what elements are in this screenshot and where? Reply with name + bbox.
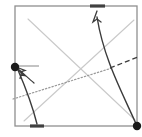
- diagram-svg: [0, 0, 142, 137]
- node-left: [11, 63, 19, 71]
- diagram-canvas: [0, 0, 142, 137]
- node-bottom-right: [133, 122, 141, 130]
